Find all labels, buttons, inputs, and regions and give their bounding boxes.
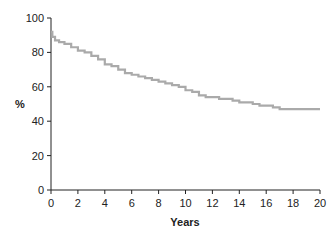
x-axis: 02468101214161820	[48, 190, 326, 209]
x-tick-label: 10	[179, 197, 191, 209]
y-tick-label: 100	[26, 12, 44, 24]
survival-chart: 020406080100 02468101214161820 % Years	[0, 0, 334, 235]
x-tick-label: 20	[314, 197, 326, 209]
x-tick-label: 18	[287, 197, 299, 209]
x-axis-title: Years	[170, 216, 199, 228]
x-tick-label: 16	[260, 197, 272, 209]
x-tick-label: 12	[206, 197, 218, 209]
x-tick-label: 0	[48, 197, 54, 209]
y-tick-label: 60	[32, 81, 44, 93]
y-tick-label: 20	[32, 150, 44, 162]
survival-curve	[51, 32, 320, 109]
x-tick-label: 2	[75, 197, 81, 209]
data-series	[51, 32, 320, 109]
x-tick-label: 8	[156, 197, 162, 209]
y-tick-label: 80	[32, 46, 44, 58]
x-tick-label: 6	[129, 197, 135, 209]
y-axis: 020406080100	[26, 12, 51, 196]
y-axis-title: %	[15, 98, 25, 110]
x-tick-label: 4	[102, 197, 108, 209]
y-tick-label: 0	[38, 184, 44, 196]
x-tick-label: 14	[233, 197, 245, 209]
y-tick-label: 40	[32, 115, 44, 127]
